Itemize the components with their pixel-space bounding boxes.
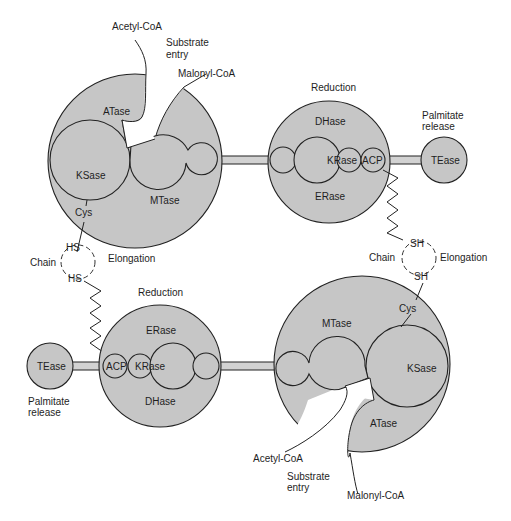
acp-label-top: ACP bbox=[362, 155, 383, 166]
substrate-entry-label-bottom-2: entry bbox=[287, 482, 309, 493]
mtase-label-bottom: MTase bbox=[322, 318, 352, 329]
elongation-label-right: Elongation bbox=[440, 252, 487, 263]
atase-label-bottom: ATase bbox=[370, 418, 397, 429]
linker-bar-top-middle bbox=[220, 156, 272, 164]
linker-bar-top-right bbox=[386, 156, 424, 164]
malonyl-coa-label-bottom: Malonyl-CoA bbox=[347, 490, 405, 501]
acetyl-coa-label-top: Acetyl-CoA bbox=[112, 21, 162, 32]
elongation-label-left: Elongation bbox=[108, 253, 155, 264]
palmitate-release-label-top-2: release bbox=[422, 121, 455, 132]
chain-label-right: Chain bbox=[369, 252, 395, 263]
tease-label-top: TEase bbox=[431, 155, 460, 166]
dhase-label-bottom: DHase bbox=[145, 396, 176, 407]
bottom-left-small-lobe bbox=[193, 353, 219, 379]
atase-label-top: ATase bbox=[103, 106, 130, 117]
malonyl-coa-leader-line-bottom bbox=[350, 453, 358, 494]
tease-label-bottom: TEase bbox=[37, 361, 66, 372]
hs-label-bottom: HS bbox=[68, 273, 82, 284]
dhase-label-top: DHase bbox=[315, 116, 346, 127]
fatty-acid-synthase-diagram: Acetyl-CoA Substrate entry Malonyl-CoA A… bbox=[0, 0, 511, 521]
linker-bar-bottom-middle bbox=[217, 362, 277, 370]
palmitate-release-label-top-1: Palmitate bbox=[422, 110, 464, 121]
acetyl-coa-label-bottom: Acetyl-CoA bbox=[253, 453, 303, 464]
sh-label-bottom: SH bbox=[414, 271, 428, 282]
substrate-entry-label-top-2: entry bbox=[166, 49, 188, 60]
malonyl-coa-label-top: Malonyl-CoA bbox=[178, 68, 236, 79]
chain-label-left: Chain bbox=[30, 257, 56, 268]
reduction-label-bottom: Reduction bbox=[138, 287, 183, 298]
top-left-ksase-domain bbox=[50, 120, 130, 200]
palmitate-release-label-bottom-1: Palmitate bbox=[28, 396, 70, 407]
cys-label-bottom: Cys bbox=[399, 303, 416, 314]
sh-label-top: SH bbox=[410, 238, 424, 249]
hs-label-top: HS bbox=[66, 242, 80, 253]
acetyl-coa-leader-line-top bbox=[135, 40, 146, 74]
substrate-entry-label-top-1: Substrate bbox=[166, 37, 209, 48]
cys-label-top: Cys bbox=[75, 207, 92, 218]
mtase-label-top: MTase bbox=[150, 195, 180, 206]
top-right-small-lobe bbox=[270, 147, 296, 173]
ksase-label-bottom: KSase bbox=[407, 363, 437, 374]
krase-label-bottom: KRase bbox=[135, 361, 165, 372]
ksase-label-top: KSase bbox=[76, 170, 106, 181]
erase-label-top: ERase bbox=[315, 191, 345, 202]
palmitate-release-label-bottom-2: release bbox=[28, 407, 61, 418]
krase-label-top: KRase bbox=[327, 155, 357, 166]
substrate-entry-label-bottom-1: Substrate bbox=[287, 471, 330, 482]
erase-label-bottom: ERase bbox=[146, 325, 176, 336]
reduction-label-top: Reduction bbox=[311, 82, 356, 93]
acp-label-bottom: ACP bbox=[106, 361, 127, 372]
